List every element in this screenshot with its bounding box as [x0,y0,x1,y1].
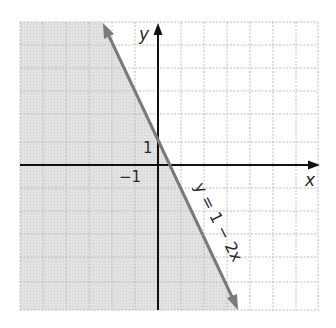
tick-label-x-neg1: −1 [119,168,141,186]
y-axis-label: y [138,24,150,44]
coordinate-graph: y x 1 −1 y = 1 − 2x [0,0,336,328]
x-axis-label: x [304,170,316,190]
tick-label-y-1: 1 [143,139,153,157]
